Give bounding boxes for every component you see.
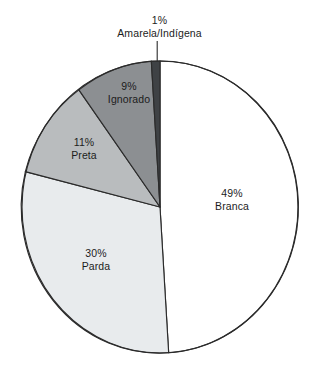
pie-label-amarela-indigena-percent: 1% <box>62 14 257 27</box>
pie-label-preta: 11% Preta <box>44 136 124 162</box>
pie-label-parda-name: Parda <box>56 260 136 273</box>
pie-chart-figure: 1% Amarela/Indígena 9% Ignorado 11% Pret… <box>0 0 319 373</box>
pie-label-branca-percent: 49% <box>192 187 272 200</box>
pie-label-branca-name: Branca <box>192 200 272 213</box>
pie-label-ignorado: 9% Ignorado <box>86 80 172 106</box>
pie-label-ignorado-name: Ignorado <box>86 93 172 106</box>
pie-label-amarela-indigena-name: Amarela/Indígena <box>62 27 257 40</box>
pie-label-parda: 30% Parda <box>56 247 136 273</box>
pie-label-amarela-indigena: 1% Amarela/Indígena <box>62 14 257 40</box>
pie-label-preta-percent: 11% <box>44 136 124 149</box>
pie-label-ignorado-percent: 9% <box>86 80 172 93</box>
pie-label-branca: 49% Branca <box>192 187 272 213</box>
pie-label-parda-percent: 30% <box>56 247 136 260</box>
pie-label-preta-name: Preta <box>44 149 124 162</box>
